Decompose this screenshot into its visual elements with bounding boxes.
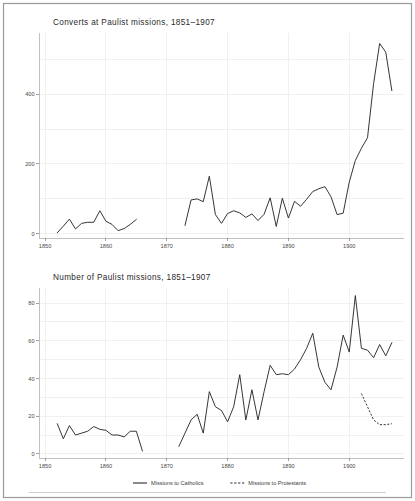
x-tick-label: 1900 xyxy=(343,243,355,249)
x-tick-label: 1900 xyxy=(343,463,355,469)
figure-container: Converts at Paulist missions, 1851–19070… xyxy=(0,0,415,501)
y-tick-label: 60 xyxy=(28,338,34,344)
x-tick-label: 1870 xyxy=(161,463,173,469)
x-tick-label: 1870 xyxy=(161,243,173,249)
y-tick-label: 80 xyxy=(28,300,34,306)
y-tick-label: 0 xyxy=(31,231,34,237)
x-tick-label: 1880 xyxy=(221,463,233,469)
legend-label: Missions to Catholics xyxy=(151,480,204,486)
chart-title-missions: Number of Paulist missions, 1851–1907 xyxy=(53,273,211,282)
x-tick-label: 1850 xyxy=(39,463,51,469)
x-tick-label: 1880 xyxy=(221,243,233,249)
x-tick-label: 1890 xyxy=(282,243,294,249)
chart-title-converts: Converts at Paulist missions, 1851–1907 xyxy=(53,18,215,27)
chart-panel-missions: Number of Paulist missions, 1851–1907020… xyxy=(28,273,404,469)
y-tick-label: 40 xyxy=(28,376,34,382)
chart-figure: Converts at Paulist missions, 1851–19070… xyxy=(0,0,415,501)
y-tick-label: 200 xyxy=(25,161,34,167)
chart-panel-converts: Converts at Paulist missions, 1851–19070… xyxy=(25,18,404,249)
x-tick-label: 1860 xyxy=(100,463,112,469)
legend-label: Missions to Protestants xyxy=(248,480,306,486)
x-tick-label: 1850 xyxy=(39,243,51,249)
y-tick-label: 20 xyxy=(28,413,34,419)
y-tick-label: 400 xyxy=(25,91,34,97)
x-tick-label: 1860 xyxy=(100,243,112,249)
x-tick-label: 1890 xyxy=(282,463,294,469)
y-tick-label: 0 xyxy=(31,451,34,457)
